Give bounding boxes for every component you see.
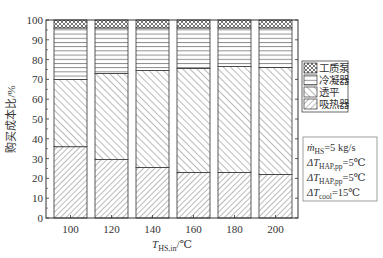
y-tick-label: 80	[32, 54, 44, 66]
y-tick-label: 0	[38, 212, 44, 224]
x-tick-label: 180	[226, 223, 243, 235]
legend-label: 吸热器	[319, 98, 350, 110]
bar-segment	[95, 20, 128, 28]
bar-segment	[218, 67, 251, 173]
y-tick-label: 50	[32, 113, 44, 125]
legend: 工质泵冷凝器透平吸热器	[302, 61, 350, 112]
legend-swatch	[304, 99, 317, 109]
bar-segment	[95, 73, 128, 159]
y-tick-label: 40	[32, 133, 44, 145]
legend-swatch	[304, 87, 317, 97]
bar-stack-200	[259, 20, 292, 218]
y-tick-label: 100	[27, 14, 44, 26]
bar-segment	[177, 28, 210, 69]
y-tick-label: 70	[32, 73, 44, 85]
x-tick-label: 140	[144, 223, 161, 235]
legend-label: 工质泵	[319, 63, 350, 74]
legend-swatch	[304, 75, 317, 85]
bar-segment	[177, 172, 210, 218]
bar-segment	[259, 174, 292, 218]
bar-segment	[177, 69, 210, 173]
y-tick-label: 10	[32, 192, 44, 204]
bars-group	[54, 20, 292, 218]
y-axis-title: 购买成本比/%	[4, 85, 17, 152]
x-axis-title: THS,in/℃	[152, 238, 192, 253]
bar-stack-140	[136, 20, 169, 218]
bar-stack-100	[54, 20, 87, 218]
bar-segment	[259, 68, 292, 175]
stacked-bar-chart: 0102030405060708090100 10012014016018020…	[0, 0, 383, 258]
bar-segment	[54, 28, 87, 79]
bar-segment	[218, 20, 251, 28]
bar-segment	[259, 28, 292, 68]
x-tick-label: 120	[103, 223, 120, 235]
bar-segment	[95, 28, 128, 74]
bar-stack-180	[218, 20, 251, 218]
bar-segment	[218, 28, 251, 67]
legend-label: 透平	[319, 87, 339, 98]
y-tick-label: 30	[32, 153, 44, 165]
bar-stack-160	[177, 20, 210, 218]
bar-segment	[136, 20, 169, 28]
bar-segment	[136, 70, 169, 167]
bar-segment	[177, 20, 210, 28]
legend-swatch	[304, 63, 317, 73]
parameter-annotation: ṁHS=5 kg/sΔTHAP,pp=5℃ΔTHAP,pp=5℃ΔTcool=1…	[303, 137, 377, 201]
bar-segment	[54, 20, 87, 28]
bar-segment	[136, 168, 169, 218]
bar-segment	[95, 160, 128, 218]
bar-segment	[259, 20, 292, 28]
x-tick-label: 100	[62, 223, 79, 235]
y-tick-label: 60	[32, 93, 44, 105]
bar-segment	[54, 79, 87, 146]
bar-segment	[54, 147, 87, 218]
bar-segment	[136, 28, 169, 71]
y-tick-label: 20	[32, 172, 44, 184]
y-tick-label: 90	[32, 34, 44, 46]
x-tick-label: 200	[267, 223, 284, 235]
bar-segment	[218, 172, 251, 218]
bar-stack-120	[95, 20, 128, 218]
legend-label: 冷凝器	[319, 74, 350, 86]
x-tick-label: 160	[185, 223, 202, 235]
